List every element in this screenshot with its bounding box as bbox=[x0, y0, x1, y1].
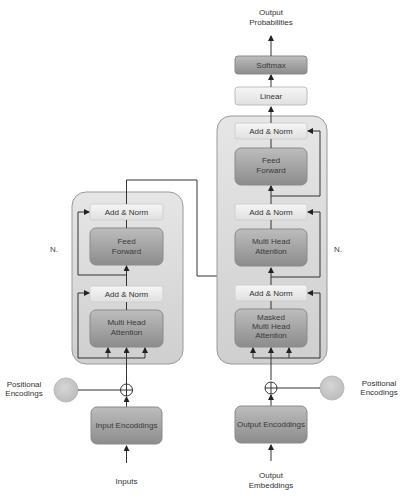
decoder-add-norm-mid-label: Add & Norm bbox=[249, 208, 293, 217]
output-encodings-label: Output Encoddings bbox=[237, 420, 305, 429]
encoder-feed-forward-label-1: Feed bbox=[117, 237, 135, 246]
encoder-positional-encoding-circle bbox=[54, 378, 78, 402]
decoder-input-section: Positional Encodings Output Encoddings O… bbox=[235, 376, 398, 490]
decoder-positional-encoding-circle bbox=[320, 376, 344, 400]
output-probabilities-label-2: Probabilities bbox=[249, 18, 293, 27]
softmax-label: Softmax bbox=[256, 61, 285, 70]
decoder-masked-label-1: Masked bbox=[257, 313, 285, 322]
linear-label: Linear bbox=[260, 92, 283, 101]
decoder-feed-forward-label-1: Feed bbox=[262, 156, 280, 165]
transformer-diagram: Add & Norm Feed Forward Add & Norm Multi… bbox=[0, 0, 408, 504]
decoder-masked-label-3: Attention bbox=[255, 331, 287, 340]
decoder-repeat-label: N. bbox=[334, 245, 342, 254]
encoder-positional-label-2: Encodings bbox=[5, 389, 42, 398]
decoder-positional-label-2: Encodings bbox=[360, 388, 397, 397]
encoder-repeat-label: N. bbox=[50, 245, 58, 254]
output-embeddings-label-1: Output bbox=[259, 471, 284, 480]
decoder-masked-label-2: Multi Head bbox=[252, 322, 290, 331]
encoder-stack: Add & Norm Feed Forward Add & Norm Multi… bbox=[50, 192, 183, 392]
encoder-positional-label-1: Positional bbox=[7, 380, 42, 389]
decoder-add-norm-bottom-label: Add & Norm bbox=[249, 289, 293, 298]
decoder-stack: Add & Norm Feed Forward Add & Norm Multi… bbox=[217, 116, 342, 380]
encoder-input-section: Positional Encodings Input Encoddings In… bbox=[5, 378, 162, 486]
input-encodings-label: Input Encoddings bbox=[96, 421, 158, 430]
decoder-positional-label-1: Positional bbox=[362, 379, 397, 388]
encoder-add-norm-top-label: Add & Norm bbox=[105, 208, 149, 217]
decoder-attention-label-1: Multi Head bbox=[252, 237, 290, 246]
decoder-feed-forward-label-2: Forward bbox=[256, 166, 285, 175]
output-probabilities-label-1: Output bbox=[259, 8, 284, 17]
encoder-attention-label-1: Multi Head bbox=[107, 318, 145, 327]
decoder-add-norm-top-label: Add & Norm bbox=[249, 127, 293, 136]
encoder-feed-forward-label-2: Forward bbox=[112, 247, 141, 256]
inputs-label: Inputs bbox=[116, 477, 138, 486]
encoder-attention-label-2: Attention bbox=[111, 328, 143, 337]
output-embeddings-label-2: Embeddings bbox=[249, 481, 293, 490]
decoder-attention-label-2: Attention bbox=[255, 247, 287, 256]
output-head: Linear Softmax Output Probabilities bbox=[235, 8, 307, 123]
encoder-add-norm-bottom-label: Add & Norm bbox=[105, 290, 149, 299]
